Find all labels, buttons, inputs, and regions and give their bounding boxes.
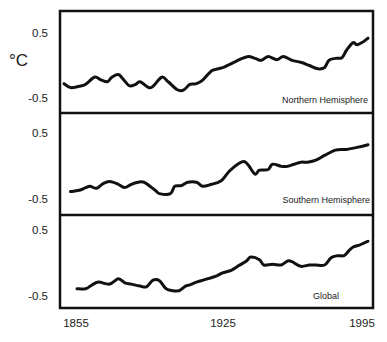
panel-1-ytick-bottom: -0.5 — [28, 92, 48, 104]
panel-3-title: Global — [313, 291, 339, 301]
global-line — [77, 241, 368, 291]
temperature-anomaly-figure: °C 0.5 -0.5 0.5 -0.5 0.5 -0.5 1855 1925 … — [0, 0, 387, 342]
xtick-end: 1995 — [349, 317, 375, 329]
panel-2-ytick-bottom: -0.5 — [28, 193, 48, 205]
southern-hemisphere-line — [71, 145, 369, 195]
xtick-start: 1855 — [63, 317, 89, 329]
panel-1-ytick-top: 0.5 — [32, 27, 48, 39]
panel-3-ytick-bottom: -0.5 — [28, 290, 48, 302]
xtick-middle: 1925 — [210, 317, 236, 329]
y-unit-label: °C — [9, 51, 28, 70]
panel-1-title: Northern Hemisphere — [282, 95, 368, 105]
northern-hemisphere-line — [64, 38, 368, 91]
panel-2-title: Southern Hemisphere — [282, 195, 370, 205]
panel-3-ytick-top: 0.5 — [32, 224, 48, 236]
panel-2-ytick-top: 0.5 — [32, 127, 48, 139]
